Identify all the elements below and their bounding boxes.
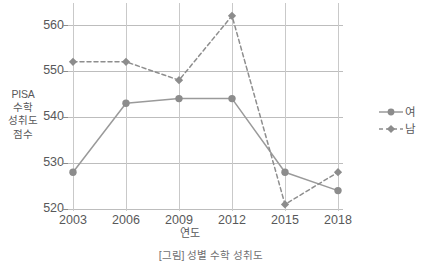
circle-marker [228,95,235,102]
y-tick-550: 550 [34,64,64,77]
diamond-marker-icon [387,125,395,133]
circle-marker [334,187,341,194]
plot-area [68,3,343,211]
circle-marker [175,95,182,102]
circle-marker [69,169,76,176]
legend-swatch-female [378,105,404,119]
circle-marker [122,100,129,107]
y-tick-540: 540 [34,110,64,123]
legend-swatch-male [378,122,404,136]
diamond-marker [69,58,77,66]
diamond-marker [334,168,342,176]
circle-marker-icon [388,109,395,116]
legend-label-male: 남 [405,122,416,136]
y-tick-560: 560 [34,19,64,32]
diamond-marker [122,58,130,66]
markers-female [69,95,341,194]
x-tick-2006: 2006 [96,213,156,228]
legend-item-female: 여 [378,105,422,119]
legend-item-male: 남 [378,122,422,136]
markers-male [69,12,342,209]
circle-marker [281,169,288,176]
x-axis-label: 연도 [180,227,200,240]
x-tick-2012: 2012 [202,213,262,228]
series-female [69,95,341,194]
figure-caption: [그림] 성별 수학 성취도 [0,249,422,261]
series-layer [68,3,343,211]
y-tick-530: 530 [34,156,64,169]
x-axis-tick-labels: 2003 2006 2009 2012 2015 2018 [68,213,343,231]
x-tick-2003: 2003 [43,213,103,228]
line-female [73,99,338,191]
chart-legend: 여 남 [378,105,422,139]
x-tick-2018: 2018 [308,213,368,228]
x-tick-2009: 2009 [149,213,209,228]
legend-label-female: 여 [405,105,416,119]
diamond-marker [281,200,289,208]
x-tick-2015: 2015 [255,213,315,228]
series-male [69,12,342,209]
